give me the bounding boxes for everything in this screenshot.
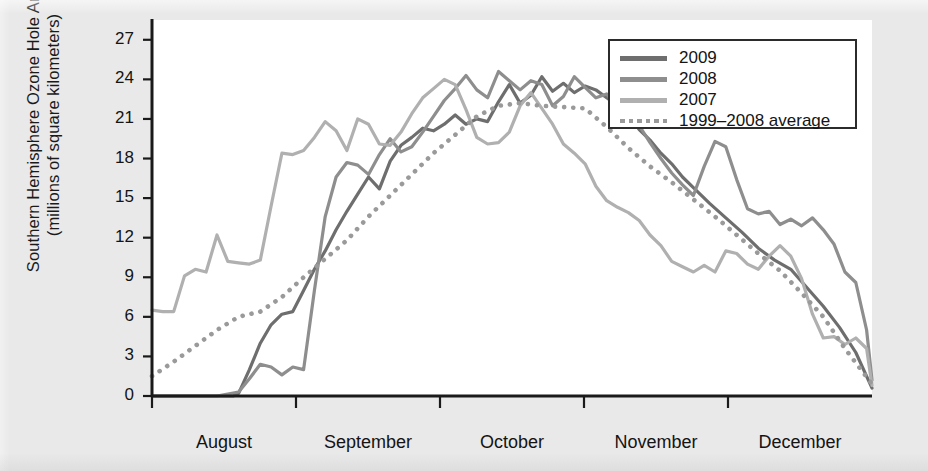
y-tick-label: 15 — [100, 187, 134, 207]
x-tick-label: September — [288, 432, 448, 453]
y-tick-label: 21 — [100, 108, 134, 128]
legend-swatch-average — [620, 119, 667, 124]
y-tick-label: 12 — [100, 227, 134, 247]
legend-swatch-2008 — [620, 77, 667, 82]
legend-label-2007: 2007 — [679, 91, 717, 109]
y-tick-label: 18 — [100, 148, 134, 168]
x-tick-label: December — [720, 432, 880, 453]
y-tick-label: 3 — [100, 345, 134, 365]
legend-label-2008: 2008 — [679, 70, 717, 88]
legend-swatch-2007 — [620, 98, 667, 103]
legend-label-2009: 2009 — [679, 49, 717, 67]
y-tick-label: 9 — [100, 266, 134, 286]
x-tick-label: November — [576, 432, 736, 453]
legend-item: 2007 — [620, 90, 855, 110]
y-tick-label: 27 — [100, 29, 134, 49]
legend-swatch-2009 — [620, 56, 667, 61]
y-tick-label: 24 — [100, 68, 134, 88]
figure-root: Southern Hemisphere Ozone Hole Area (mil… — [0, 0, 928, 471]
y-tick-label: 0 — [100, 385, 134, 405]
legend-item: 2008 — [620, 69, 855, 89]
x-tick-label: August — [144, 432, 304, 453]
legend-item: 1999–2008 average — [620, 111, 855, 131]
x-tick-label: October — [432, 432, 592, 453]
legend-item: 2009 — [620, 48, 855, 68]
y-tick-label: 6 — [100, 306, 134, 326]
legend: 2009 2008 2007 1999–2008 average — [608, 39, 857, 129]
legend-label-average: 1999–2008 average — [679, 112, 830, 130]
